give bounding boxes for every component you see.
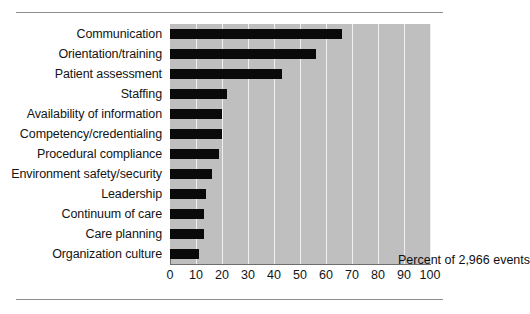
bar-row [170,64,430,84]
bar [170,229,204,239]
x-tick-label: 90 [397,268,411,282]
bar-row [170,164,430,184]
bar [170,49,316,59]
category-label: Leadership [101,184,162,204]
x-axis-line [170,264,431,265]
bar-row [170,24,430,44]
x-tick-label: 20 [215,268,229,282]
category-label: Patient assessment [55,64,162,84]
x-axis-tick-labels: 0102030405060708090100 [0,268,459,288]
x-tick-label: 100 [420,268,441,282]
bar [170,89,227,99]
plot-area: Percent of 2,966 events [170,24,430,264]
bar [170,189,206,199]
x-tick-label: 30 [241,268,255,282]
bar-row [170,224,430,244]
bar-row [170,204,430,224]
bar [170,209,204,219]
x-tick-label: 40 [267,268,281,282]
x-tick-label: 80 [371,268,385,282]
bar-row [170,124,430,144]
category-label: Organization culture [52,244,162,264]
bar-row [170,104,430,124]
category-axis-labels: CommunicationOrientation/trainingPatient… [0,24,166,264]
category-label: Staffing [121,84,162,104]
bar [170,29,342,39]
category-label: Availability of information [27,104,162,124]
x-tick-label: 70 [345,268,359,282]
x-tick-label: 0 [167,268,174,282]
bar [170,249,199,259]
bar-row [170,184,430,204]
bar [170,69,282,79]
bar-row [170,244,430,264]
bar-row [170,44,430,64]
gridline-100 [430,24,431,264]
bar [170,169,212,179]
category-label: Competency/credentialing [20,124,162,144]
category-label: Procedural compliance [37,144,162,164]
bar [170,109,222,119]
bar [170,129,222,139]
bar-row [170,84,430,104]
bottom-divider-rule [16,299,443,300]
category-label: Care planning [85,224,162,244]
category-label: Communication [76,24,162,44]
bar-row [170,144,430,164]
bar-series [170,24,430,264]
bar [170,149,219,159]
category-label: Continuum of care [62,204,162,224]
top-divider-rule [16,12,443,13]
x-tick-label: 10 [189,268,203,282]
category-label: Orientation/training [58,44,162,64]
x-tick-label: 60 [319,268,333,282]
category-label: Environment safety/security [11,164,162,184]
x-tick-label: 50 [293,268,307,282]
